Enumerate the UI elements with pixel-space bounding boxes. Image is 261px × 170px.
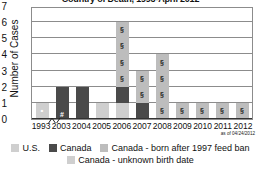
legend-item[interactable]: U.S. xyxy=(11,142,40,154)
bar-segment[interactable]: §§§§ xyxy=(156,54,169,119)
legend-swatch xyxy=(49,144,57,152)
bar-stack: §§§§ xyxy=(156,54,169,119)
y-tick-1: 1 xyxy=(0,99,7,109)
y-tick-5: 5 xyxy=(0,34,7,44)
x-tick-2005: 2005 xyxy=(92,121,112,132)
x-axis-tick-labels: 1993200320042005200620072008200920102011… xyxy=(31,121,253,132)
section-symbol-mark: § xyxy=(160,103,164,119)
bar-stack: § xyxy=(196,103,209,119)
legend-label: Canada - unknown birth date xyxy=(78,154,194,166)
bar-segment[interactable]: §§ xyxy=(136,71,149,103)
section-symbol-mark: § xyxy=(120,71,124,87)
section-symbol-mark: § xyxy=(120,55,124,71)
dagger-mark: • xyxy=(41,107,44,115)
y-tick-4: 4 xyxy=(0,50,7,60)
bar-segment[interactable]: §§§§ xyxy=(116,22,129,87)
section-symbol-mark: § xyxy=(160,71,164,87)
bar-column-1993[interactable]: • xyxy=(32,8,52,119)
bar-column-2010[interactable]: § xyxy=(192,8,212,119)
bar-column-2008[interactable]: §§§§ xyxy=(152,8,172,119)
bar-segment[interactable]: § xyxy=(196,103,209,119)
x-tick-2004: 2004 xyxy=(71,121,91,132)
y-tick-6: 6 xyxy=(0,18,7,28)
bar-column-2005[interactable] xyxy=(92,8,112,119)
y-axis-title: Number of Cases xyxy=(9,14,20,104)
bar-stack xyxy=(96,103,109,119)
bar-segment[interactable] xyxy=(96,103,109,119)
section-symbol-mark: § xyxy=(180,103,184,119)
section-symbol-mark: § xyxy=(120,22,124,38)
bar-column-2007[interactable]: §§ xyxy=(132,8,152,119)
y-tick-3: 3 xyxy=(0,67,7,77)
bar-column-2012[interactable]: § xyxy=(232,8,252,119)
legend-label: Canada - born after 1997 feed ban xyxy=(111,142,249,154)
bar-segment[interactable]: # xyxy=(56,87,69,119)
bar-segment[interactable] xyxy=(116,87,129,103)
bar-segment[interactable] xyxy=(136,103,149,119)
bar-stack: # xyxy=(56,87,69,119)
x-tick-2010: 2010 xyxy=(193,121,213,132)
bar-stack: §§§§ xyxy=(116,22,129,119)
bar-column-2011[interactable]: § xyxy=(212,8,232,119)
bar-stack: § xyxy=(176,103,189,119)
bar-column-2004[interactable] xyxy=(72,8,92,119)
y-tick-7: 7 xyxy=(0,2,7,12)
bar-stack xyxy=(76,87,89,119)
legend-item[interactable]: Canada xyxy=(49,142,92,154)
bar-column-2003[interactable]: # xyxy=(52,8,72,119)
chart-legend: U.S.CanadaCanada - born after 1997 feed … xyxy=(0,142,261,166)
x-tick-2009: 2009 xyxy=(172,121,192,132)
section-symbol-mark: § xyxy=(140,71,144,87)
legend-row-1: Canada - unknown birth date xyxy=(0,154,261,166)
bar-series-group: •#§§§§§§§§§§§§§§ xyxy=(32,8,252,119)
legend-label: Canada xyxy=(60,142,92,154)
x-tick-2007: 2007 xyxy=(132,121,152,132)
legend-swatch xyxy=(67,156,75,164)
section-symbol-mark: § xyxy=(200,103,204,119)
bar-segment[interactable]: § xyxy=(176,103,189,119)
legend-row-0: U.S.CanadaCanada - born after 1997 feed … xyxy=(0,142,261,154)
x-tick-2003: 2003 xyxy=(51,121,71,132)
bar-stack: §§ xyxy=(136,71,149,119)
section-symbol-mark: § xyxy=(240,103,244,119)
x-tick-2006: 2006 xyxy=(112,121,132,132)
section-symbol-mark: § xyxy=(160,87,164,103)
section-symbol-mark: § xyxy=(140,87,144,103)
bar-segment[interactable]: § xyxy=(236,103,249,119)
plot-area: •#§§§§§§§§§§§§§§ xyxy=(31,7,253,120)
y-tick-0: 0 xyxy=(0,115,7,125)
legend-swatch xyxy=(11,144,19,152)
chart-root: Country of Death, 1993-April 2012 Number… xyxy=(0,0,261,170)
x-axis-line xyxy=(32,118,252,119)
section-symbol-mark: § xyxy=(160,55,164,71)
bar-segment[interactable] xyxy=(76,87,89,119)
legend-swatch xyxy=(100,144,108,152)
as-of-note: as of 04/24/2012 xyxy=(221,131,255,136)
bar-column-2006[interactable]: §§§§ xyxy=(112,8,132,119)
bar-stack: § xyxy=(236,103,249,119)
legend-item[interactable]: Canada - unknown birth date xyxy=(67,154,194,166)
x-tick-2008: 2008 xyxy=(152,121,172,132)
y-tick-2: 2 xyxy=(0,83,7,93)
chart-title: Country of Death, 1993-April 2012 xyxy=(0,0,261,4)
legend-item[interactable]: Canada - born after 1997 feed ban xyxy=(100,142,249,154)
section-symbol-mark: § xyxy=(220,103,224,119)
bar-stack: § xyxy=(216,103,229,119)
x-tick-1993: 1993 xyxy=(31,121,51,132)
bar-segment[interactable] xyxy=(116,103,129,119)
section-symbol-mark: § xyxy=(120,38,124,54)
bar-column-2009[interactable]: § xyxy=(172,8,192,119)
bar-segment[interactable]: § xyxy=(216,103,229,119)
legend-label: U.S. xyxy=(22,142,40,154)
